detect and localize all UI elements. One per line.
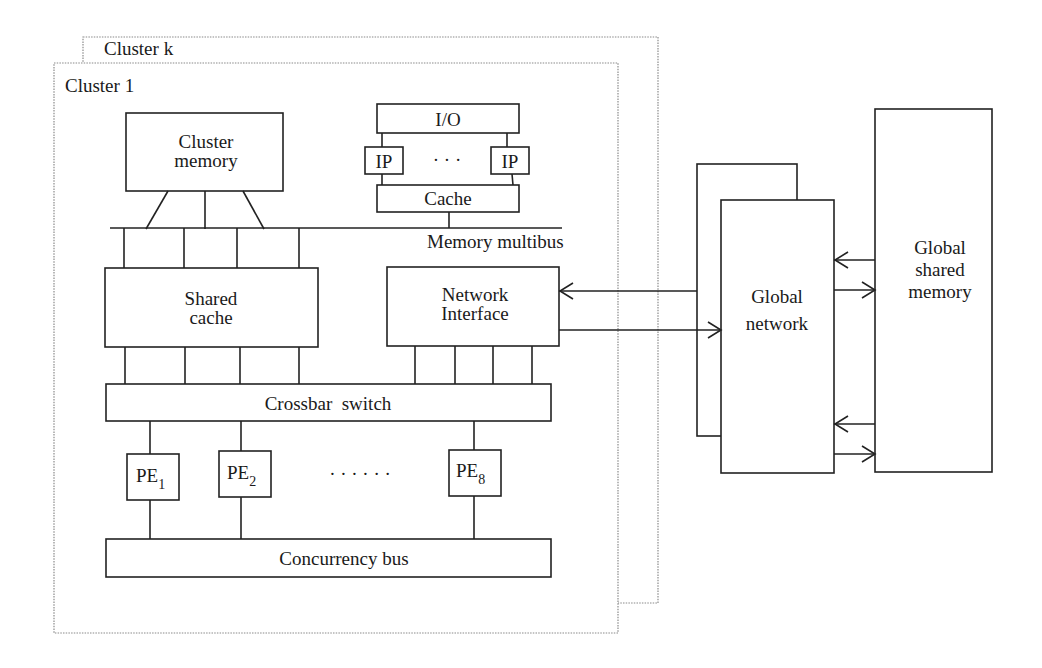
global-shared-memory-block: Global shared memory — [875, 109, 992, 472]
network-interface-label-2: Interface — [441, 303, 509, 324]
global-network-label-1: Global — [751, 286, 803, 307]
network-interface-label-1: Network — [442, 284, 509, 305]
global-shared-memory-label-2: shared — [915, 259, 965, 280]
ip-left-label: IP — [376, 151, 393, 172]
ip-right-label: IP — [502, 151, 519, 172]
cluster-1-label: Cluster 1 — [65, 75, 134, 96]
pe-8-block: PE8 — [449, 450, 501, 496]
gn-gsm-arrows-lower — [834, 416, 875, 462]
global-network-label-2: network — [746, 313, 809, 334]
pe-2-block: PE2 — [219, 451, 271, 497]
io-subsystem: I/O IP · · · IP Cache — [365, 104, 529, 228]
memory-multibus-label: Memory multibus — [427, 231, 564, 252]
shared-cache-label-2: cache — [189, 307, 232, 328]
global-network-block: Global network — [721, 200, 834, 473]
cluster-memory-block: Cluster memory — [126, 113, 283, 191]
cluster-k-label: Cluster k — [104, 38, 174, 59]
shared-cache-block: Shared cache — [105, 268, 318, 347]
concurrency-bus-label: Concurrency bus — [279, 548, 408, 569]
cluster-architecture-diagram: Cluster k Cluster 1 Cluster memory Memor… — [0, 0, 1042, 668]
concurrency-bus-block: Concurrency bus — [106, 539, 551, 577]
io-ellipsis: · · · — [433, 149, 461, 170]
pe-1-block: PE1 — [127, 454, 179, 500]
shared-cache-label-1: Shared — [185, 288, 238, 309]
network-interface-block: Network Interface — [387, 267, 559, 346]
cluster-memory-label-1: Cluster — [179, 131, 235, 152]
gn-gsm-arrows-upper — [834, 252, 875, 298]
io-cache-label: Cache — [424, 188, 471, 209]
pe-ellipsis: · · · · · · — [329, 463, 391, 484]
crossbar-switch-block: Crossbar switch — [106, 384, 551, 421]
global-shared-memory-label-1: Global — [914, 237, 966, 258]
io-label: I/O — [435, 109, 460, 130]
global-shared-memory-label-3: memory — [908, 281, 972, 302]
crossbar-switch-label: Crossbar switch — [265, 393, 392, 414]
cluster-memory-label-2: memory — [174, 150, 238, 171]
